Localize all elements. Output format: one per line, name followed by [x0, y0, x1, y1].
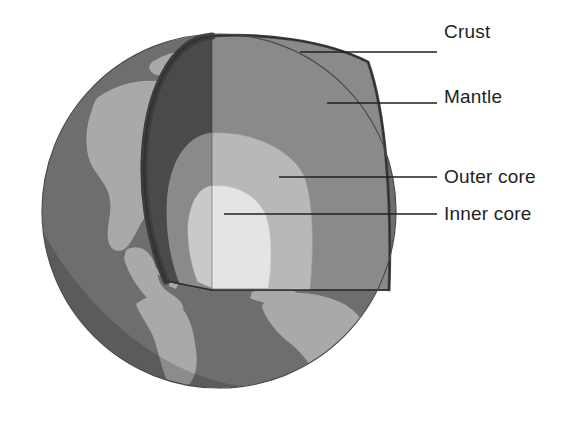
label-mantle: Mantle: [444, 87, 502, 106]
label-outer-core: Outer core: [444, 167, 536, 186]
label-crust: Crust: [444, 22, 490, 41]
diagram-canvas: Crust Mantle Outer core Inner core: [0, 0, 567, 423]
label-inner-core: Inner core: [444, 204, 532, 223]
cutaway-wedge-group: [144, 35, 390, 290]
